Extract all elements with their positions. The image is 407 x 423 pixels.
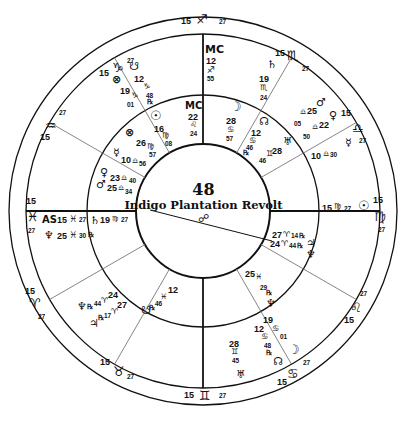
aries-icon: ♈ xyxy=(29,297,41,310)
chart-number: 48 xyxy=(0,180,407,199)
inner-south-node-deg: 12 xyxy=(168,286,178,295)
fortune-min: 01 xyxy=(127,102,134,109)
inner-mercury-deg: 10 xyxy=(121,156,131,165)
mc-min: 55 xyxy=(207,76,214,83)
pisces-icon: ♓ xyxy=(27,210,39,223)
inner-sun-icon: ☉ xyxy=(150,109,162,122)
inner-mars-icon: ♂ xyxy=(96,179,106,190)
sign-leo-deg: 15 xyxy=(344,316,354,325)
ascendant-label: AS xyxy=(42,215,57,225)
inner-mc-sign-icon: ♌ xyxy=(190,121,197,129)
inner-uranus-min: 46 xyxy=(259,158,266,165)
uranus-min: 45 xyxy=(232,358,239,365)
inner-fortune-icon: ⊗ xyxy=(125,127,134,138)
inner-neptune-deg: 24 xyxy=(108,291,118,300)
inner-sun-sign-icon: ♍ xyxy=(162,132,169,140)
inner-venus-min: 40 xyxy=(129,178,136,185)
sun-inner-deg: 15 xyxy=(322,204,332,213)
neptune-min: 30 xyxy=(79,233,86,240)
pluto-retro: ℞ xyxy=(266,290,272,297)
pluto-deg: 25 xyxy=(245,270,255,279)
inner-mc-min: 24 xyxy=(190,131,197,138)
jupiter-min: 14 xyxy=(291,233,298,240)
inner-venus-deg: 23 xyxy=(110,174,120,183)
inner-venus-icon: ♀ xyxy=(100,167,108,178)
aquarius-icon: ♒ xyxy=(45,119,57,132)
gemini-icon: ♊ xyxy=(199,389,211,402)
sign-aries-min: 27 xyxy=(38,314,45,321)
node-retro: ℞ xyxy=(266,350,272,357)
south-node-icon: ☋ xyxy=(129,61,139,72)
venus-icon: ♀ xyxy=(329,110,337,121)
mars-deg: 25 xyxy=(307,107,317,116)
saturn-sign-icon: ♏ xyxy=(260,84,267,92)
sign-pisces-min: 27 xyxy=(28,228,35,235)
sign-scorpio-min: 27 xyxy=(302,66,309,73)
sign-cancer-deg: 15 xyxy=(277,378,287,387)
neptune-r-min: 44 xyxy=(289,243,296,250)
neptune-r-deg: 24 xyxy=(270,240,280,249)
moon-sign-icon: ♋ xyxy=(272,325,279,333)
neptune-sign-icon: ♓ xyxy=(69,231,77,240)
sign-aquarius-min: 27 xyxy=(59,110,66,117)
sun-inner-min: 27 xyxy=(344,206,351,213)
saturn-left-sign-icon: ♍ xyxy=(112,216,118,223)
inner-mercury-min: 56 xyxy=(139,161,146,168)
inner-mercury-icon: ☿ xyxy=(113,147,120,158)
mars-min: 05 xyxy=(294,121,301,128)
inner-node-retro: ℞ xyxy=(243,150,249,157)
sign-aries-deg: 15 xyxy=(25,287,35,296)
inner-mars-min: 34 xyxy=(125,189,132,196)
sign-taurus-min: 27 xyxy=(127,374,134,381)
midheaven-label: MC xyxy=(205,44,224,55)
saturn-left-min: 27 xyxy=(121,217,128,224)
asc-deg: 15 xyxy=(57,216,67,225)
mars-sign-icon: ♎ xyxy=(300,109,306,116)
venus-min: 50 xyxy=(303,134,310,141)
sign-cancer-min: 27 xyxy=(303,360,310,367)
south-node-retro: ℞ xyxy=(147,99,153,106)
mercury-deg: 10 xyxy=(311,152,321,161)
saturn-left-deg: 19 xyxy=(100,216,110,225)
saturn-icon: ♄ xyxy=(267,59,277,70)
fortune-sign-icon: ♑ xyxy=(131,92,138,100)
inner-uranus-icon: ♅ xyxy=(283,136,293,147)
neptune-retro: ℞ xyxy=(88,232,94,239)
virgo-small-icon: ♍ xyxy=(334,203,341,211)
sun-icon: ☉ xyxy=(358,199,370,212)
sign-libra-min: 27 xyxy=(359,138,366,145)
neptune-deg: 25 xyxy=(57,232,67,241)
sign-top-min: 27 xyxy=(219,19,226,26)
mc-sign-icon: ♐ xyxy=(207,66,215,75)
node-icon: ☊ xyxy=(273,356,283,367)
sign-pisces-deg: 15 xyxy=(26,197,36,206)
asc-sign-icon: ♓ xyxy=(69,215,77,224)
uranus-icon: ♅ xyxy=(236,369,246,380)
sign-capricorn-deg: 15 xyxy=(99,69,109,78)
inner-moon-sign-icon: ♋ xyxy=(227,126,234,134)
sign-virgo-min: 27 xyxy=(378,227,385,234)
venus-deg: 22 xyxy=(319,121,329,130)
node-sign-icon: ♋ xyxy=(261,333,268,341)
inner-fortune-sign-icon: ♍ xyxy=(147,143,154,151)
sign-libra-deg: 15 xyxy=(341,109,351,118)
sign-virgo-deg: 15 xyxy=(373,196,383,205)
inner-midheaven-label: MC xyxy=(185,101,202,111)
sign-aquarius-deg: 15 xyxy=(40,133,50,142)
inner-fortune-deg: 26 xyxy=(136,139,146,148)
inner-mars-sign-icon: ♎ xyxy=(118,185,124,192)
inner-neptune-icon: ♆ xyxy=(77,301,87,312)
mercury-icon: ☿ xyxy=(345,137,352,148)
sign-taurus-deg: 15 xyxy=(100,358,110,367)
inner-uranus-deg: 28 xyxy=(272,147,282,156)
asc-min: 27 xyxy=(79,217,86,224)
inner-moon-min: 57 xyxy=(226,136,233,143)
inner-neptune-retro: ℞ xyxy=(87,304,93,311)
mars-icon: ♂ xyxy=(316,97,326,108)
sign-scorpio-deg: 15 xyxy=(275,49,285,58)
sign-gemini-deg: 15 xyxy=(184,391,194,400)
mercury-sign-icon: ♎ xyxy=(323,151,329,158)
neptune-icon: ♆ xyxy=(44,230,54,241)
inner-fortune-min: 57 xyxy=(149,152,156,159)
jupiter-sign-icon: ♈ xyxy=(283,231,290,239)
